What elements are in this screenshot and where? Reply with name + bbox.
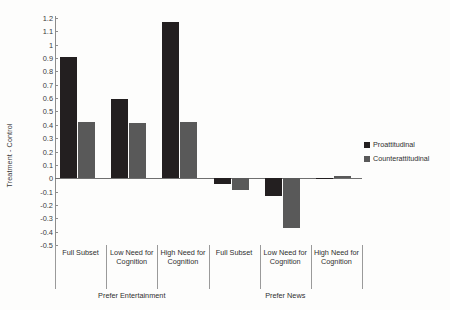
bar (316, 178, 333, 179)
legend-item: Proattitudinal (364, 140, 450, 149)
bar (129, 123, 146, 178)
category-separator (106, 245, 107, 289)
bar (162, 22, 179, 178)
y-axis-tick-label: -0.3 (23, 214, 53, 223)
bar (111, 99, 128, 178)
super-group-label: Prefer Entertainment (55, 291, 209, 300)
legend-item: Counterattitudinal (364, 154, 450, 163)
bar (78, 122, 95, 178)
category-separator (362, 245, 363, 289)
plot-area (55, 18, 362, 245)
y-axis-tick-label: 0.6 (23, 94, 53, 103)
bar (214, 178, 231, 183)
y-axis-title: Treatment - Control (2, 0, 18, 310)
y-axis-tick-label: 1 (23, 40, 53, 49)
y-axis-tick-label: -0.1 (23, 187, 53, 196)
category-label: High Need for Cognition (159, 248, 206, 267)
y-axis-tick-label: 0 (23, 174, 53, 183)
y-axis-tick-label: 0.4 (23, 120, 53, 129)
y-axis-tick-label: 1.1 (23, 27, 53, 36)
y-axis-tick-label: 0.2 (23, 147, 53, 156)
bar (180, 122, 197, 178)
y-axis-tick-label: -0.2 (23, 200, 53, 209)
y-axis-tick-label: 0.5 (23, 107, 53, 116)
bar (232, 178, 249, 190)
category-label: Full Subset (57, 248, 104, 257)
category-separator (209, 245, 210, 289)
bar (265, 178, 282, 195)
category-separator (260, 245, 261, 289)
legend-swatch-icon (364, 156, 370, 162)
category-label: Full Subset (211, 248, 258, 257)
category-separator (55, 245, 56, 289)
y-axis-tick-labels: 1.21.110.90.80.70.60.50.40.30.20.10-0.1-… (20, 0, 53, 310)
category-label: Low Need for Cognition (262, 248, 309, 267)
category-separator (157, 245, 158, 289)
y-axis-tick-label: -0.5 (23, 241, 53, 250)
bar (334, 176, 351, 178)
category-label: High Need for Cognition (313, 248, 360, 267)
legend-swatch-icon (364, 142, 370, 148)
legend-label: Counterattitudinal (373, 154, 429, 163)
y-axis-tick-label: 0.3 (23, 134, 53, 143)
y-axis-tick-label: 1.2 (23, 14, 53, 23)
y-axis-tick-label: 0.7 (23, 80, 53, 89)
y-axis-tick-label: 0.8 (23, 67, 53, 76)
super-group-label: Prefer News (209, 291, 363, 300)
category-axis: Full SubsetLow Need for CognitionHigh Ne… (55, 245, 362, 310)
y-axis-tick-label: 0.9 (23, 54, 53, 63)
y-axis-tick-label: 0.1 (23, 160, 53, 169)
legend-label: Proattitudinal (373, 140, 415, 149)
category-label: Low Need for Cognition (108, 248, 155, 267)
category-separator (311, 245, 312, 289)
chart-legend: ProattitudinalCounterattitudinal (364, 140, 450, 168)
bar (283, 178, 300, 227)
bar-chart: Treatment - Control 1.21.110.90.80.70.60… (0, 0, 450, 310)
y-axis-title-text: Treatment - Control (6, 123, 15, 187)
bar (60, 57, 77, 179)
y-axis-tick-label: -0.4 (23, 227, 53, 236)
